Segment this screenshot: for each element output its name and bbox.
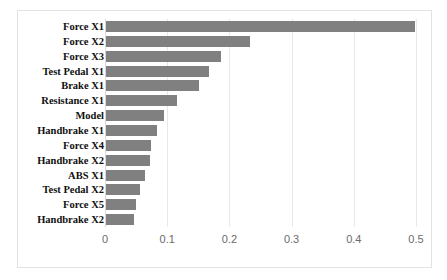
chart-container: Force X1Force X2Force X3Test Pedal X1Bra… [17,10,432,268]
category-label: Resistance X1 [18,95,104,106]
tick-label: 0.5 [408,233,423,245]
category-label: Test Pedal X1 [18,66,104,77]
gridline [416,19,417,227]
bar [106,36,250,47]
bar [106,199,136,210]
bar [106,170,145,181]
bar [106,21,415,32]
bar [106,214,134,225]
bar [106,51,221,62]
tick-label: 0 [102,233,108,245]
gridline [292,19,293,227]
tick-label: 0.4 [346,233,361,245]
category-label: Model [18,110,104,121]
category-label: Force X1 [18,21,104,32]
chart-plot-area [105,19,416,227]
bar [106,66,209,77]
category-label: ABS X1 [18,170,104,181]
chart-plot-wrapper: Force X1Force X2Force X3Test Pedal X1Bra… [18,11,431,267]
bar [106,95,177,106]
category-label: Handbrake X2 [18,214,104,225]
bar [106,155,150,166]
bar [106,125,157,136]
value-axis-tick-labels: 00.10.20.30.40.5 [105,233,416,251]
tick-label: 0.3 [284,233,299,245]
gridline [229,19,230,227]
gridline [354,19,355,227]
bar [106,110,164,121]
bar [106,184,140,195]
bar [106,140,151,151]
tick-label: 0.1 [160,233,175,245]
category-label: Test Pedal X2 [18,184,104,195]
bar [106,80,199,91]
category-label: Handbrake X2 [18,155,104,166]
category-label: Force X3 [18,51,104,62]
category-label: Force X2 [18,36,104,47]
category-label: Brake X1 [18,80,104,91]
tick-label: 0.2 [222,233,237,245]
category-label: Force X5 [18,199,104,210]
category-label: Force X4 [18,140,104,151]
category-label: Handbrake X1 [18,125,104,136]
category-axis-labels: Force X1Force X2Force X3Test Pedal X1Bra… [18,19,104,227]
